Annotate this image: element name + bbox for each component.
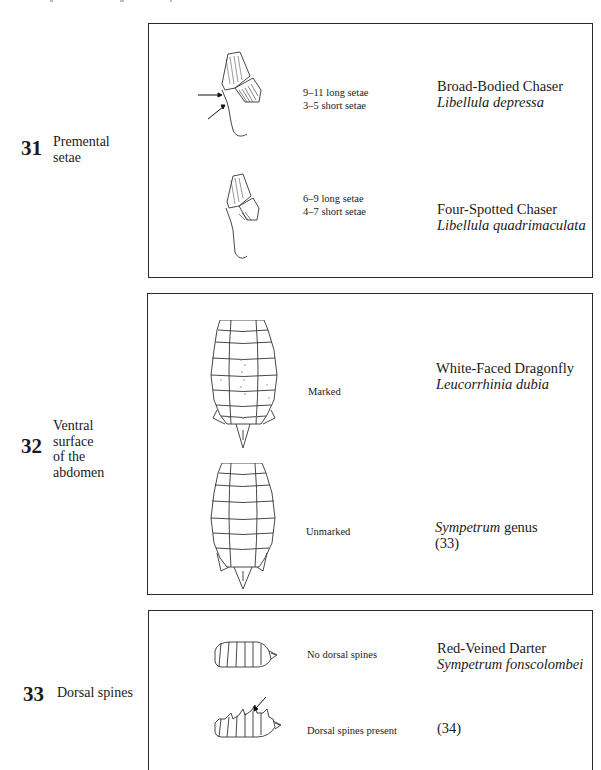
option-feature: Marked: [308, 386, 341, 399]
abdomen-lateral-spines-figure: [211, 695, 285, 745]
couplet-character: Dorsal spines: [57, 685, 133, 701]
latin-name: Leucorrhinia dubia: [436, 376, 574, 392]
option-result: White-Faced Dragonfly Leucorrhinia dubia: [436, 360, 574, 392]
latin-name: Sympetrum: [435, 519, 500, 535]
couplet-character: Premental setae: [53, 134, 110, 165]
couplet-reference[interactable]: (33): [435, 535, 538, 551]
couplet-number: 31: [21, 138, 42, 159]
couplet-reference[interactable]: (34): [437, 720, 461, 736]
abdomen-ventral-marked-figure: [209, 320, 283, 450]
option-feature: 9–11 long setae 3–5 short setae: [303, 87, 369, 112]
option-result: Red-Veined Darter Sympetrum fonscolombei: [437, 640, 583, 672]
latin-suffix: genus: [500, 519, 537, 535]
option-feature: No dorsal spines: [307, 649, 377, 662]
clipped-header-remnant: [0, 0, 601, 3]
option-feature: Unmarked: [306, 526, 350, 539]
latin-name: Sympetrum fonscolombei: [437, 656, 583, 672]
couplet-number: 32: [21, 436, 42, 457]
prementum-figure: [195, 168, 275, 268]
common-name: Red-Veined Darter: [437, 640, 583, 656]
option-feature: 6–9 long setae 4–7 short setae: [303, 193, 366, 218]
latin-name: Libellula depressa: [437, 94, 563, 110]
couplet-character: Ventral surface of the abdomen: [53, 418, 104, 480]
genus-line: Sympetrum genus: [435, 519, 538, 535]
prementum-with-arrows-figure: [195, 44, 275, 144]
common-name: Four-Spotted Chaser: [437, 201, 586, 217]
option-feature: Dorsal spines present: [307, 725, 397, 738]
abdomen-ventral-unmarked-figure: [209, 463, 283, 593]
couplet-33-box: [148, 610, 593, 770]
option-result: Sympetrum genus (33): [435, 519, 538, 551]
latin-name: Libellula quadrimaculata: [437, 217, 586, 233]
option-result: Broad-Bodied Chaser Libellula depressa: [437, 78, 563, 110]
option-result: (34): [437, 720, 461, 736]
common-name: White-Faced Dragonfly: [436, 360, 574, 376]
abdomen-lateral-no-spines-figure: [211, 637, 281, 673]
couplet-number: 33: [23, 684, 44, 705]
option-result: Four-Spotted Chaser Libellula quadrimacu…: [437, 201, 586, 233]
common-name: Broad-Bodied Chaser: [437, 78, 563, 94]
